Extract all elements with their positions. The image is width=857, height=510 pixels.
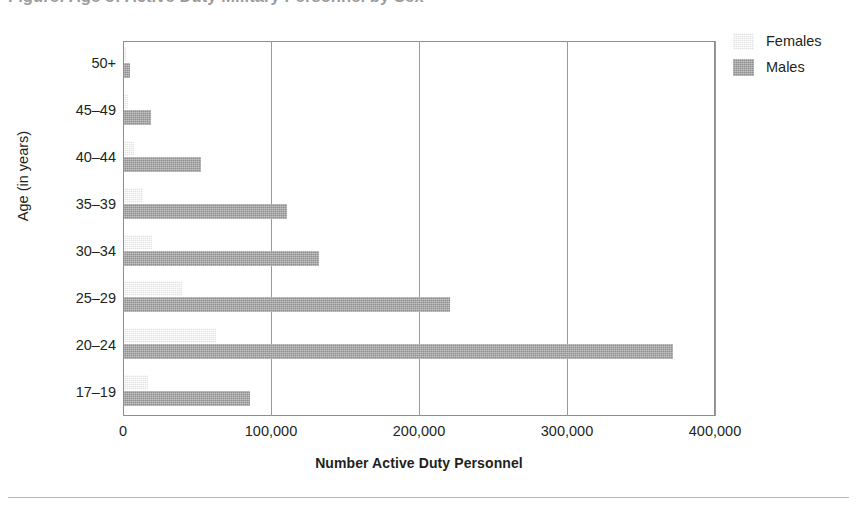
bar-males-17–19 [124,391,250,406]
plot-area [123,41,715,416]
bar-males-20–24 [124,344,673,359]
y-tick-label: 40–44 [16,149,116,165]
bar-group [124,135,716,182]
legend-item-females: Females [733,28,853,54]
legend-label-males: Males [766,59,805,75]
x-tick-label: 100,000 [211,423,331,439]
bar-males-50+ [124,63,130,78]
figure-bottom-rule [8,497,849,498]
bar-females-17–19 [124,375,148,390]
y-tick-label: 30–34 [16,243,116,259]
bar-females-25–29 [124,281,182,296]
bar-group [124,88,716,135]
chart-figure: Figure: Age of Active Duty Military Pers… [0,0,857,510]
bar-females-30–34 [124,235,152,250]
y-tick-label: 20–24 [16,337,116,353]
legend-swatch-males [733,59,754,76]
bar-group [124,41,716,88]
x-tick-label: 300,000 [507,423,627,439]
legend-swatch-females [733,33,754,50]
bar-females-50+ [124,47,126,62]
bar-females-20–24 [124,328,216,343]
bar-group [124,182,716,229]
bar-group [124,275,716,322]
x-tick-label: 200,000 [359,423,479,439]
y-tick-label: 50+ [16,55,116,71]
x-axis-title: Number Active Duty Personnel [123,455,715,471]
y-tick-label: 25–29 [16,290,116,306]
x-tick-label: 0 [63,423,183,439]
legend-label-females: Females [766,33,822,49]
bar-males-25–29 [124,297,450,312]
bar-females-35–39 [124,188,143,203]
bar-group [124,229,716,276]
chart-title: Figure: Age of Active Duty Military Pers… [8,0,708,5]
chart-legend: FemalesMales [733,28,853,80]
y-tick-label: 45–49 [16,102,116,118]
bar-females-40–44 [124,141,134,156]
bar-males-45–49 [124,110,151,125]
bar-males-35–39 [124,204,287,219]
bar-males-40–44 [124,157,201,172]
x-tick-label: 400,000 [655,423,775,439]
x-axis-tick-labels: 0100,000200,000300,000400,000 [0,423,857,445]
y-axis-title: Age (in years) [15,81,31,271]
y-tick-label: 17–19 [16,384,116,400]
legend-item-males: Males [733,54,853,80]
bar-group [124,322,716,369]
bar-females-45–49 [124,94,128,109]
bar-males-30–34 [124,251,319,266]
bar-group [124,369,716,416]
y-tick-label: 35–39 [16,196,116,212]
